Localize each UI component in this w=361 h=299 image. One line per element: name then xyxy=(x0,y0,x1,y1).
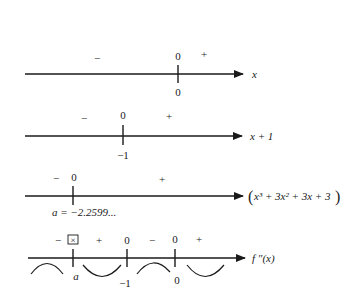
sign-positive: + xyxy=(196,233,202,245)
sign-negative: − xyxy=(81,112,87,124)
row-f-double-prime: − × + 0 − 0 + a −1 0 f ″(x) xyxy=(28,233,275,289)
paren-close: ) xyxy=(335,188,340,206)
row-label: x + 1 xyxy=(249,130,273,142)
sign-negative: − xyxy=(149,234,155,246)
zero-marker: 0 xyxy=(172,233,178,245)
row-label: x xyxy=(251,68,257,80)
row-x: − 0 + 0 x xyxy=(25,48,257,98)
tick-value-zero: 0 xyxy=(174,274,180,286)
concave-up-icon xyxy=(187,265,224,277)
sign-chart-diagram: − 0 + 0 x − 0 + −1 x + 1 − 0 + a = −2.25… xyxy=(0,0,361,299)
sign-positive: + xyxy=(96,234,102,246)
tick-value-a: a = −2.2599... xyxy=(52,206,116,218)
row-cubic: − 0 + a = −2.2599... ( x³ + 3x² + 3x + 3… xyxy=(25,171,340,218)
tick-value: 0 xyxy=(175,86,181,98)
sign-positive: + xyxy=(166,110,172,122)
tick-value-a: a xyxy=(73,270,79,282)
tick-value: −1 xyxy=(117,149,129,161)
sign-positive: + xyxy=(159,173,165,185)
concave-down-icon xyxy=(137,263,170,274)
zero-marker: 0 xyxy=(124,234,130,246)
zero-marker: 0 xyxy=(175,50,181,62)
tick-value-minus-one: −1 xyxy=(119,277,131,289)
sign-negative: − xyxy=(53,172,59,184)
sign-positive: + xyxy=(201,48,207,60)
concave-up-icon xyxy=(83,265,121,277)
row-label: f ″(x) xyxy=(252,252,275,265)
zero-marker: 0 xyxy=(120,109,126,121)
zero-marker: 0 xyxy=(71,171,77,183)
paren-open: ( xyxy=(248,188,253,206)
sign-negative: − xyxy=(94,52,100,64)
undefined-mark: × xyxy=(70,235,75,245)
sign-negative: − xyxy=(55,234,61,246)
concave-down-icon xyxy=(31,264,63,275)
row-label: x³ + 3x² + 3x + 3 xyxy=(253,190,331,202)
row-x-plus-1: − 0 + −1 x + 1 xyxy=(25,109,273,161)
undefined-marker: × xyxy=(68,235,78,245)
